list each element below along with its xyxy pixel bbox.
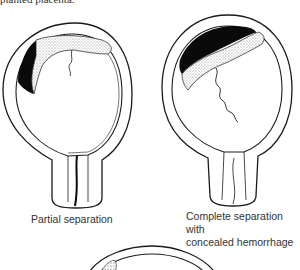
- figure-partial-separation: [0, 20, 150, 210]
- uterus-third-illustration: [80, 244, 220, 270]
- caption-complete-line1: Complete separation with: [186, 210, 300, 236]
- uterus-partial-illustration: [0, 20, 150, 210]
- uterus-complete-illustration: [150, 10, 300, 210]
- figure-third-partial: [80, 244, 220, 270]
- cutoff-heading-text: planted placenta.: [0, 0, 75, 5]
- caption-partial-separation: Partial separation: [31, 213, 113, 226]
- figure-complete-separation: [150, 10, 300, 210]
